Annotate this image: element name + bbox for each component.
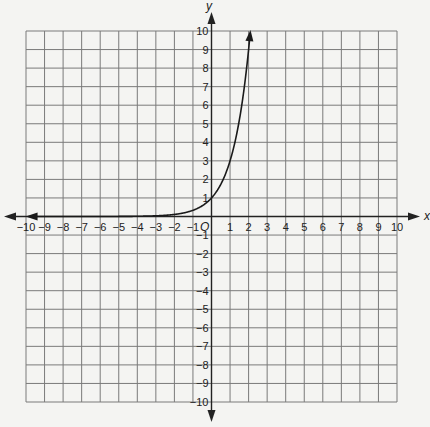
y-axis-label: y — [205, 0, 213, 13]
x-tick-label: 7 — [338, 221, 344, 233]
x-tick-label: −5 — [112, 221, 125, 233]
x-tick-label: 8 — [357, 221, 363, 233]
y-tick-label: −1 — [196, 229, 209, 241]
x-tick-label: −10 — [17, 221, 36, 233]
y-tick-label: 7 — [202, 81, 208, 93]
x-tick-label: −4 — [131, 221, 144, 233]
curve-layer — [26, 30, 254, 220]
y-tick-label: −8 — [196, 359, 209, 371]
x-tick-label: 6 — [320, 221, 326, 233]
y-tick-label: −3 — [196, 266, 209, 278]
y-tick-label: 9 — [202, 44, 208, 56]
y-tick-label: −5 — [196, 303, 209, 315]
x-tick-label: −3 — [150, 221, 163, 233]
x-axis-label: x — [423, 209, 430, 223]
exponential-curve — [32, 34, 251, 216]
y-axis-down-arrow-icon — [208, 410, 216, 422]
y-tick-label: 10 — [196, 25, 208, 37]
y-tick-label: −10 — [190, 396, 209, 408]
y-tick-label: 8 — [202, 62, 208, 74]
x-tick-label: −2 — [168, 221, 181, 233]
y-tick-label: −6 — [196, 322, 209, 334]
y-tick-label: 6 — [202, 99, 208, 111]
curve-up-arrow-icon — [245, 30, 253, 41]
x-tick-label: −8 — [57, 221, 70, 233]
x-tick-label: 9 — [375, 221, 381, 233]
x-tick-label: −6 — [94, 221, 107, 233]
x-tick-label: −9 — [38, 221, 51, 233]
x-tick-label: 10 — [391, 221, 403, 233]
y-tick-label: −9 — [196, 377, 209, 389]
y-tick-label: 3 — [202, 155, 208, 167]
y-tick-label: −4 — [196, 285, 209, 297]
x-tick-label: −7 — [75, 221, 88, 233]
x-tick-label: 3 — [264, 221, 270, 233]
y-tick-label: 2 — [202, 173, 208, 185]
y-tick-label: 5 — [202, 118, 208, 130]
y-tick-label: −7 — [196, 340, 209, 352]
x-tick-label: 1 — [227, 221, 233, 233]
x-axis-left-arrow-icon — [4, 213, 16, 221]
y-tick-label: −2 — [196, 248, 209, 260]
x-tick-label: 4 — [283, 221, 289, 233]
x-axis-right-arrow-icon — [408, 213, 420, 221]
axes: x y O — [4, 0, 430, 422]
x-tick-label: 5 — [301, 221, 307, 233]
curve-left-arrow-icon — [26, 212, 38, 220]
coordinate-plane: x y O −10−9−8−7−6−5−4−3−2−112345678910−1… — [0, 0, 430, 427]
y-axis-up-arrow-icon — [208, 12, 216, 24]
y-tick-label: 4 — [202, 136, 208, 148]
x-tick-label: 2 — [246, 221, 252, 233]
